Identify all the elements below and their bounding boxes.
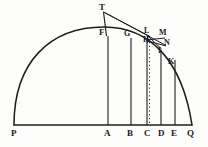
label-K: K [168, 58, 174, 66]
label-C: C [144, 129, 151, 138]
label-D: D [158, 129, 165, 138]
label-M: M [159, 29, 167, 37]
geometric-figure: P A B C D E Q T F G L H M N I K [0, 0, 208, 147]
tangent-line-TN [104, 12, 167, 46]
figure-canvas [0, 0, 208, 147]
label-N: N [164, 39, 170, 47]
label-Q: Q [187, 129, 194, 138]
label-I: I [158, 47, 161, 55]
label-P: P [11, 129, 17, 138]
label-B: B [127, 129, 133, 138]
label-G: G [124, 30, 130, 38]
label-T: T [99, 3, 105, 12]
label-F: F [99, 28, 105, 37]
label-E: E [171, 129, 177, 138]
label-A: A [104, 129, 111, 138]
label-L: L [144, 27, 149, 35]
tangent-line-group [104, 12, 167, 49]
label-H: H [143, 36, 149, 44]
ordinate-group [108, 36, 175, 125]
